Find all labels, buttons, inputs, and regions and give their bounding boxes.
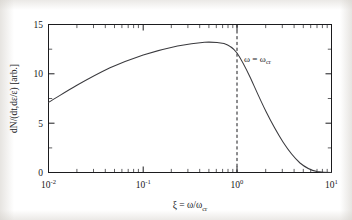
x-axis-title: ξ = ω/ωcr xyxy=(173,200,208,212)
y-tick-label: 5 xyxy=(38,119,43,129)
y-tick-label: 10 xyxy=(34,69,44,79)
synchrotron-spectrum-chart: 10-2 10-1 100 101 0 5 10 15 dN/(dt,dε/ε)… xyxy=(0,0,352,220)
y-tick-label: 0 xyxy=(38,168,43,178)
x-tick-label: 10-2 xyxy=(41,178,56,190)
x-tick-label: 10-1 xyxy=(136,178,151,190)
x-tick-label: 101 xyxy=(325,178,338,190)
y-tick-labels: 0 5 10 15 xyxy=(34,20,44,178)
figure-container: 10-2 10-1 100 101 0 5 10 15 dN/(dt,dε/ε)… xyxy=(0,0,352,220)
y-axis-title: dN/(dt,dε/ε) [arb.] xyxy=(9,64,20,133)
y-tick-label: 15 xyxy=(34,20,44,30)
x-tick-label: 100 xyxy=(231,178,245,190)
x-tick-labels: 10-2 10-1 100 101 xyxy=(41,178,338,190)
